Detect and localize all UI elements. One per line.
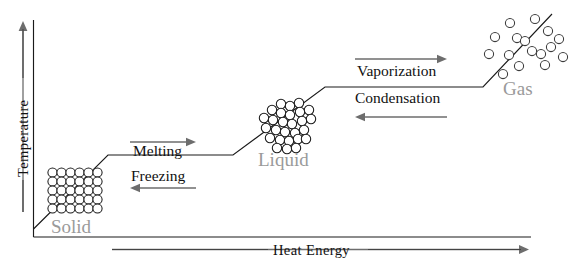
gas-particle-scatter bbox=[484, 14, 567, 78]
phase-label-liquid: Liquid bbox=[258, 149, 309, 170]
condensation-arrow bbox=[355, 113, 447, 121]
melting-arrowhead bbox=[186, 138, 196, 146]
diagram-canvas: Melting Freezing Vaporization Condensati… bbox=[0, 0, 575, 265]
phase-label-solid: Solid bbox=[51, 216, 92, 237]
freezing-arrow bbox=[130, 184, 196, 192]
vaporization-label: Vaporization bbox=[357, 62, 436, 79]
melting-label: Melting bbox=[133, 142, 182, 159]
x-axis-label: Heat Energy bbox=[273, 242, 350, 258]
condensation-label: Condensation bbox=[355, 89, 440, 106]
vaporization-arrowhead bbox=[437, 55, 447, 63]
phase-change-diagram: Melting Freezing Vaporization Condensati… bbox=[0, 0, 575, 265]
freezing-label: Freezing bbox=[131, 167, 185, 184]
liquid-particle-cluster bbox=[259, 98, 315, 153]
phase-label-gas: Gas bbox=[503, 78, 533, 99]
freezing-arrowhead bbox=[130, 184, 140, 192]
condensation-arrowhead bbox=[355, 113, 365, 121]
solid-particle-lattice bbox=[48, 168, 102, 213]
y-axis-label: Temperature bbox=[15, 100, 31, 177]
